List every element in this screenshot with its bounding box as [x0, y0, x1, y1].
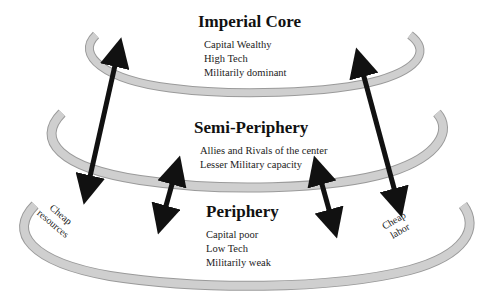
- periphery-traits: Capital poor Low Tech Militarily weak: [206, 228, 271, 270]
- semi-periphery-traits: Allies and Rivals of the center Lesser M…: [200, 144, 327, 172]
- semi-periphery-right-arrow: [318, 170, 333, 224]
- imperial-core-title: Imperial Core: [198, 12, 301, 32]
- trait: Lesser Military capacity: [200, 158, 327, 172]
- imperial-core-traits: Capital Wealthy High Tech Militarily dom…: [204, 38, 287, 80]
- periphery-title: Periphery: [206, 202, 279, 222]
- trait: Capital poor: [206, 228, 271, 242]
- trait: Capital Wealthy: [204, 38, 287, 52]
- trait: Allies and Rivals of the center: [200, 144, 327, 158]
- trait: Low Tech: [206, 242, 271, 256]
- trait: Militarily dominant: [204, 66, 287, 80]
- trait: Militarily weak: [206, 256, 271, 270]
- semi-periphery-title: Semi-Periphery: [194, 118, 308, 138]
- trait: High Tech: [204, 52, 287, 66]
- semi-periphery-left-arrow: [162, 170, 176, 220]
